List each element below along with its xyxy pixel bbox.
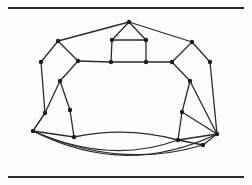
- graph-vertex: [110, 38, 114, 42]
- graph-vertex: [188, 79, 192, 83]
- graph-vertex: [190, 40, 194, 44]
- graph-edge: [70, 110, 74, 137]
- graph-curved-edge: [74, 132, 178, 140]
- graph-edge: [78, 61, 111, 62]
- graph-edge: [60, 81, 70, 110]
- graph-vertex: [58, 79, 62, 83]
- graph-edge: [45, 81, 60, 113]
- graph-vertex: [208, 60, 212, 64]
- graph-edge: [41, 41, 58, 62]
- graph-vertex: [127, 20, 131, 24]
- graph-vertex: [170, 60, 174, 64]
- graph-edge: [178, 112, 182, 140]
- graph-edge: [58, 22, 129, 41]
- graph-edge: [58, 41, 78, 61]
- graph-vertex: [144, 60, 148, 64]
- graph-edge: [111, 40, 112, 62]
- graph-vertex: [72, 135, 76, 139]
- graph-vertex: [109, 60, 113, 64]
- graph-edge: [172, 62, 190, 81]
- graph-edge: [60, 61, 78, 81]
- graph-vertex: [180, 110, 184, 114]
- polyhedral-graph-drawing: [0, 0, 252, 185]
- graph-vertex: [215, 132, 219, 136]
- graph-vertex: [31, 129, 35, 133]
- graph-edge: [192, 42, 210, 62]
- figure-page: [0, 0, 252, 185]
- graph-vertex: [76, 59, 80, 63]
- graph-vertex: [56, 39, 60, 43]
- graph-edge: [41, 62, 45, 113]
- edge-layer: [33, 22, 217, 145]
- graph-vertex: [68, 108, 72, 112]
- graph-vertex: [43, 111, 47, 115]
- graph-vertex: [176, 138, 180, 142]
- graph-edge: [172, 42, 192, 62]
- graph-vertex: [39, 60, 43, 64]
- graph-edge: [182, 81, 190, 112]
- graph-vertex: [144, 38, 148, 42]
- graph-edge: [33, 113, 45, 131]
- graph-vertex: [201, 143, 205, 147]
